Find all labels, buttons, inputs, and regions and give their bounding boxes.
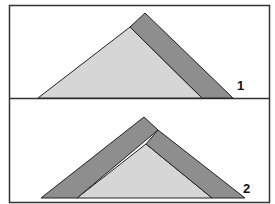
diagram: 1 2 <box>0 0 275 204</box>
panel-1-label: 1 <box>237 78 244 93</box>
panel-2-label: 2 <box>243 181 250 196</box>
